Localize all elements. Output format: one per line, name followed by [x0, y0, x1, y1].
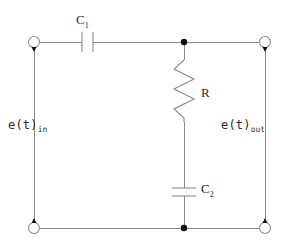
label-c2: C2 — [201, 182, 214, 199]
circuit-diagram: C1 C2 R e(t)in e(t)out — [0, 0, 302, 246]
terminal-output-top[interactable] — [260, 37, 271, 48]
label-c1-subscript: 1 — [85, 21, 89, 30]
junction-node-top-mid — [181, 39, 187, 45]
label-c2-subscript: 2 — [210, 190, 214, 199]
label-e-out-subscript: out — [251, 125, 265, 134]
label-e-in: e(t)in — [8, 119, 47, 134]
resistor-r-zigzag — [174, 60, 194, 122]
terminal-output-bottom-stub — [263, 218, 268, 223]
capacitor-c1 — [82, 32, 93, 52]
label-c2-symbol: C — [201, 181, 210, 196]
label-c1-symbol: C — [76, 12, 85, 27]
label-c1: C1 — [76, 13, 89, 30]
terminal-input-top[interactable] — [29, 37, 40, 48]
terminal-output-top-stub — [263, 47, 268, 52]
terminal-output-bottom[interactable] — [260, 223, 271, 234]
label-r: R — [201, 86, 210, 99]
terminal-input-top-stub — [32, 47, 37, 52]
resistor-r — [174, 60, 194, 122]
label-e-in-subscript: in — [38, 125, 48, 134]
capacitor-c2 — [172, 188, 196, 196]
label-e-in-symbol: e(t) — [8, 118, 38, 132]
junction-node-bottom-mid — [181, 225, 187, 231]
terminal-input-bottom-stub — [32, 218, 37, 223]
label-e-out: e(t)out — [221, 119, 265, 134]
terminal-input-bottom[interactable] — [29, 223, 40, 234]
label-e-out-symbol: e(t) — [221, 118, 251, 132]
